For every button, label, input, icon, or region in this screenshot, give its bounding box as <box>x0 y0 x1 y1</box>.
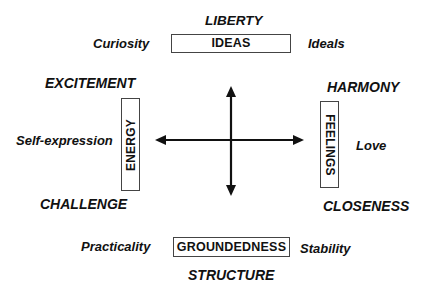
box-feelings: FEELINGS <box>320 101 339 188</box>
box-groundedness: GROUNDEDNESS <box>173 237 290 257</box>
heading-structure: STRUCTURE <box>188 268 274 282</box>
arrow-up-icon <box>226 86 236 97</box>
label-practicality: Practicality <box>81 240 150 253</box>
label-love: Love <box>356 139 386 152</box>
box-energy-label: ENERGY <box>125 119 137 171</box>
heading-liberty: LIBERTY <box>205 14 263 28</box>
box-ideas: IDEAS <box>171 34 291 53</box>
arrow-left-icon <box>155 135 166 145</box>
label-stability: Stability <box>300 242 351 255</box>
arrow-right-icon <box>293 135 304 145</box>
arrow-down-icon <box>226 185 236 196</box>
heading-harmony: HARMONY <box>327 80 399 94</box>
heading-challenge: CHALLENGE <box>40 197 127 211</box>
horizontal-double-arrow <box>155 135 304 145</box>
box-feelings-label: FEELINGS <box>324 114 336 176</box>
heading-excitement: EXCITEMENT <box>45 76 135 90</box>
label-self-expression: Self-expression <box>16 134 113 147</box>
box-groundedness-label: GROUNDEDNESS <box>177 241 286 254</box>
label-curiosity: Curiosity <box>93 37 149 50</box>
label-ideals: Ideals <box>308 37 345 50</box>
box-energy: ENERGY <box>121 98 140 191</box>
heading-closeness: CLOSENESS <box>323 199 409 213</box>
box-ideas-label: IDEAS <box>211 37 250 50</box>
